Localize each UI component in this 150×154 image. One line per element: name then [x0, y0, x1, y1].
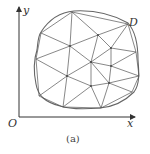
x-axis-label: x	[127, 117, 134, 130]
figure-caption: (a)	[66, 133, 80, 144]
mesh-diagram: y O x D (a)	[0, 0, 150, 154]
y-axis-label: y	[22, 4, 30, 17]
mesh-edges	[36, 12, 139, 108]
region-label: D	[128, 16, 138, 29]
origin-label: O	[8, 117, 17, 130]
